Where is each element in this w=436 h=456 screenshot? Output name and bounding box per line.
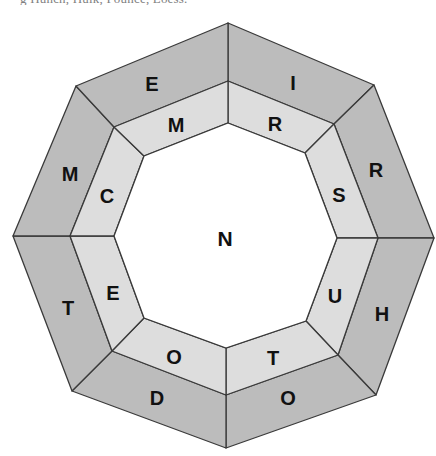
middle-letter-7: C [100, 185, 114, 207]
middle-letter-3: U [328, 285, 342, 307]
outer-letter-8: E [145, 73, 158, 95]
outer-letter-3: H [375, 303, 389, 325]
outer-letter-7: M [62, 163, 79, 185]
outer-letter-4: O [280, 387, 296, 409]
outer-letter-2: R [369, 159, 384, 181]
middle-letter-6: E [106, 282, 119, 304]
middle-letter-8: M [168, 114, 185, 136]
middle-letter-4: T [267, 347, 279, 369]
middle-letter-5: O [166, 346, 182, 368]
center-letter: N [217, 227, 232, 250]
outer-letter-1: I [290, 72, 296, 94]
octagon-word-puzzle: I R H O D T M E R S U T O E C M N [0, 0, 436, 456]
outer-letter-6: T [62, 297, 74, 319]
middle-letter-1: R [268, 113, 283, 135]
middle-letter-2: S [332, 184, 345, 206]
outer-letter-5: D [150, 387, 164, 409]
